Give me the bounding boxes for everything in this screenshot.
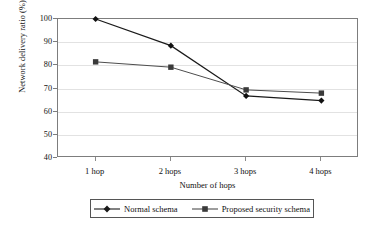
series-line bbox=[96, 62, 322, 93]
y-axis-tick-mark bbox=[53, 157, 57, 158]
series-line bbox=[96, 19, 322, 101]
y-axis-tick-mark bbox=[53, 64, 57, 65]
x-axis-tick-label: 1 hop bbox=[85, 166, 104, 176]
y-axis-tick-mark bbox=[53, 111, 57, 112]
x-axis-title: Number of hops bbox=[57, 180, 358, 190]
data-point-square-marker bbox=[243, 87, 248, 92]
data-point-diamond-marker bbox=[168, 43, 174, 49]
x-axis-tick-mark bbox=[320, 157, 321, 161]
x-axis-tick-mark bbox=[95, 157, 96, 161]
y-axis-tick-label: 80 bbox=[12, 60, 52, 69]
series-lines bbox=[58, 19, 359, 158]
y-axis-tick-label: 100 bbox=[12, 14, 52, 23]
legend-label-normal-schema: Normal schema bbox=[124, 204, 178, 214]
x-axis-tick-mark bbox=[245, 157, 246, 161]
y-axis-tick-mark bbox=[53, 88, 57, 89]
chart-figure: Network delivery ratio (%) 4050607080901… bbox=[0, 0, 373, 231]
legend-diamond-marker-icon bbox=[94, 204, 120, 214]
legend-label-proposed-security-schema: Proposed security schema bbox=[222, 204, 310, 214]
x-axis-tick-mark bbox=[170, 157, 171, 161]
y-axis-tick-label: 90 bbox=[12, 37, 52, 46]
data-point-square-marker bbox=[319, 90, 324, 95]
chart-legend: Normal schema Proposed security schema bbox=[90, 199, 314, 218]
y-axis-tick-label: 50 bbox=[12, 129, 52, 138]
data-point-square-marker bbox=[168, 64, 173, 69]
x-axis-tick-label: 3 hops bbox=[234, 166, 256, 176]
y-axis-tick-label: 70 bbox=[12, 83, 52, 92]
data-point-diamond-marker bbox=[93, 16, 99, 22]
data-point-diamond-marker bbox=[318, 97, 324, 103]
legend-item-proposed-security-schema[interactable]: Proposed security schema bbox=[192, 204, 310, 214]
data-point-square-marker bbox=[93, 59, 98, 64]
y-axis-tick-mark bbox=[53, 18, 57, 19]
y-axis-tick-label: 40 bbox=[12, 153, 52, 162]
y-axis-tick-mark bbox=[53, 41, 57, 42]
legend-item-normal-schema[interactable]: Normal schema bbox=[94, 204, 178, 214]
x-axis-tick-label: 2 hops bbox=[159, 166, 181, 176]
legend-square-marker-icon bbox=[192, 204, 218, 214]
plot-area bbox=[57, 18, 358, 157]
y-axis-tick-mark bbox=[53, 134, 57, 135]
x-axis-tick-label: 4 hops bbox=[309, 166, 331, 176]
y-axis-tick-label: 60 bbox=[12, 106, 52, 115]
